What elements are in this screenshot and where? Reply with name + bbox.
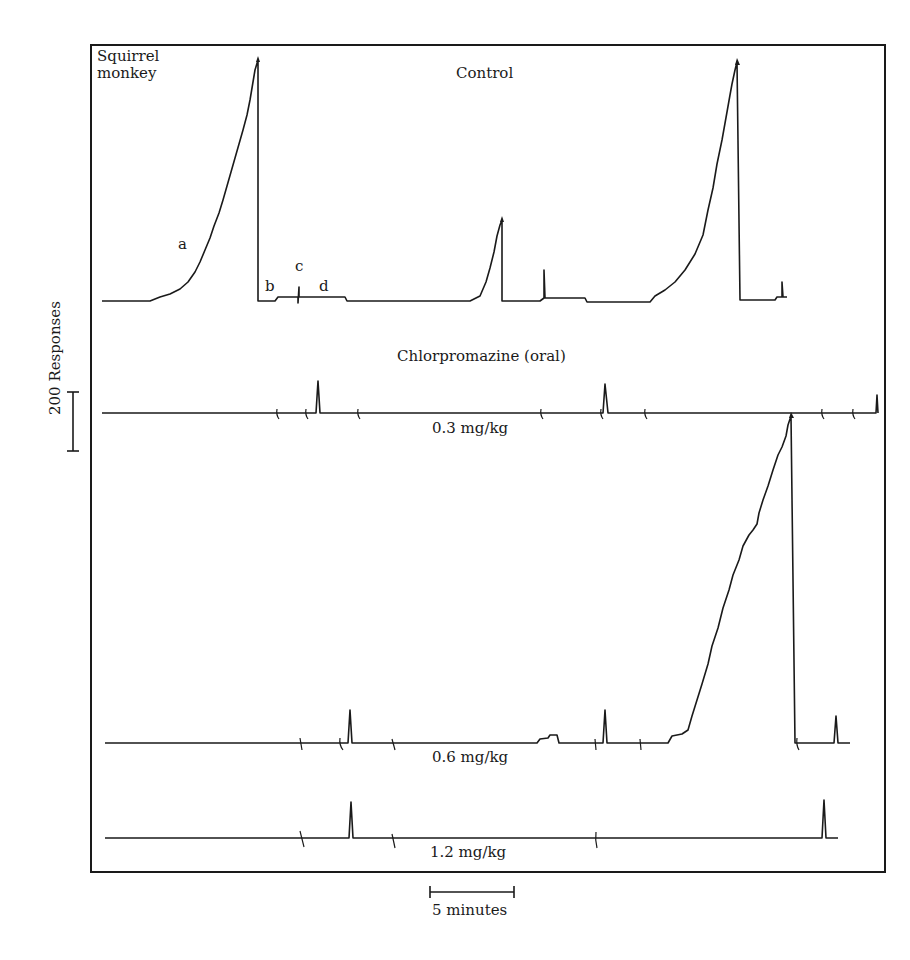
dose-1.2-record <box>105 800 838 838</box>
dose-1.2-label: 1.2 mg/kg <box>430 844 506 861</box>
dose-0.6-record <box>105 416 850 743</box>
subject-label-line2: monkey <box>97 65 159 82</box>
subject-label-line1: Squirrel <box>97 48 159 65</box>
horizontal-scale-bar <box>430 886 514 898</box>
dose-0.3-label: 0.3 mg/kg <box>432 420 508 437</box>
vertical-scale-label: 200 Responses <box>46 301 64 415</box>
dose-0.3-record <box>102 381 878 413</box>
cumulative-record-plot <box>0 0 910 960</box>
vertical-scale-bar <box>67 392 79 451</box>
annotation-d: d <box>319 278 329 295</box>
dose-0.6-label: 0.6 mg/kg <box>432 749 508 766</box>
annotation-a: a <box>178 236 187 253</box>
drug-title: Chlorpromazine (oral) <box>397 348 566 365</box>
event-hatch-marks <box>277 409 855 848</box>
annotation-c: c <box>295 258 303 275</box>
control-record <box>102 60 787 303</box>
control-title: Control <box>456 65 513 82</box>
annotation-b: b <box>265 278 275 295</box>
horizontal-scale-label: 5 minutes <box>432 902 507 919</box>
subject-label: Squirrel monkey <box>97 48 159 82</box>
